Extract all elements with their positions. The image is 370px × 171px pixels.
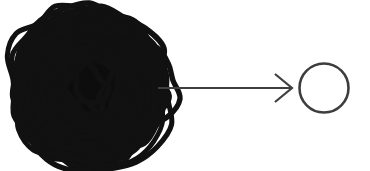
diagram-canvas [0, 0, 370, 171]
concept-diagram [0, 0, 370, 171]
